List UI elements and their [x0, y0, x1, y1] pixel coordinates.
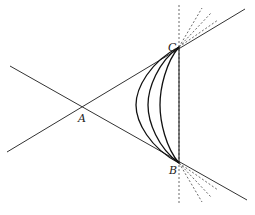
diagram-canvas: A B C — [0, 0, 255, 215]
geometry-figure: A B C — [0, 0, 255, 215]
dashed-rays-at-B — [179, 163, 218, 202]
label-A: A — [77, 112, 86, 125]
curve-outer — [136, 47, 179, 163]
curves-C-to-B — [136, 47, 179, 163]
label-B: B — [168, 164, 177, 177]
dashed-rays-at-C — [179, 8, 218, 47]
line-through-A-B — [10, 66, 247, 200]
line-through-A-C — [7, 9, 245, 152]
curve-inner — [160, 47, 179, 163]
label-C: C — [168, 41, 177, 54]
